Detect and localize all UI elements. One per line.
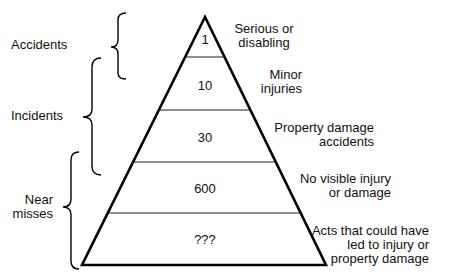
level-value-1: 1	[190, 33, 220, 47]
level-description-1: Serious or disabling	[229, 22, 299, 50]
level-value-4: 600	[185, 182, 225, 196]
brace-near-misses	[63, 152, 79, 269]
level-value-2: 10	[190, 79, 220, 93]
group-label-incidents: Incidents	[11, 109, 63, 123]
level-description-2: Minor injuries	[240, 68, 302, 96]
group-label-accidents: Accidents	[11, 38, 67, 52]
level-value-3: 30	[190, 131, 220, 145]
level-description-3: Property damage accidents	[265, 121, 374, 149]
level-value-5: ???	[185, 233, 225, 247]
brace-incidents	[83, 58, 101, 175]
level-description-4: No visible injury or damage	[280, 172, 391, 200]
brace-accidents	[111, 13, 126, 79]
level-description-5: Acts that could have led to injury or pr…	[300, 224, 429, 266]
group-label-near-misses: Near misses	[8, 193, 53, 221]
